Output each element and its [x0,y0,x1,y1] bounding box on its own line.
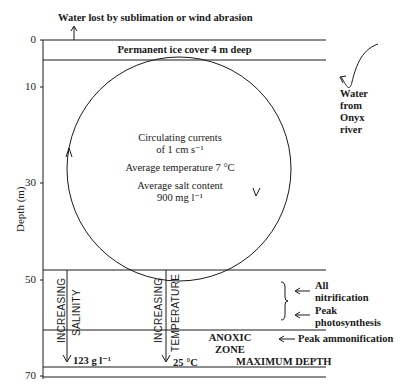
salinity-label-2: SALINITY [71,289,82,336]
inflow-label-2: from [340,100,362,112]
photosynthesis-label-2: photosynthesis [315,317,381,329]
nitrification-label-1: All [315,280,328,292]
salinity-value: 123 g l⁻¹ [73,355,111,367]
nitrification-label-2: nitrification [315,292,369,304]
y-axis-label: Depth (m) [14,186,26,232]
tick-50: 50 [14,273,36,285]
anoxic-label-1: ANOXIC [205,332,255,344]
anoxic-label-2: ZONE [205,344,255,356]
inflow-label-1: Water [340,88,368,100]
temperature-label-1: INCREASING [153,278,164,343]
tick-10: 10 [14,80,36,92]
circle-text-4: Average salt content [100,180,260,192]
temperature-label-2: TEMPERATURE [170,274,181,352]
photosynthesis-label-1: Peak [315,305,337,317]
temperature-value: 25 °C [173,357,198,369]
inflow-label-4: river [340,124,362,136]
circle-text-1: Circulating currents [100,132,260,144]
ice-cover-label: Permanent ice cover 4 m deep [43,44,326,56]
circle-text-5: 900 mg l⁻¹ [100,192,260,204]
tick-70: 70 [14,369,36,381]
sublimation-label: Water lost by sublimation or wind abrasi… [58,12,252,24]
circle-text-2: of 1 cm s⁻¹ [100,144,260,156]
tick-0: 0 [14,33,36,45]
max-depth-label: MAXIMUM DEPTH [236,356,331,368]
salinity-label-1: INCREASING [56,278,67,343]
circle-text-3: Average temperature 7 °C [100,162,260,174]
ammonification-label: Peak ammonification [298,333,393,345]
inflow-label-3: Onyx [340,112,365,124]
